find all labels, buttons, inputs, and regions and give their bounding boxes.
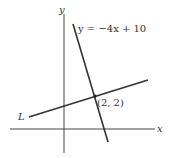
y-axis-label: y <box>58 4 65 15</box>
line-L <box>29 80 148 117</box>
coordinate-diagram: y x y = −4x + 10 L (2, 2) <box>0 0 171 158</box>
x-axis-label: x <box>157 123 163 134</box>
steep-line <box>73 24 108 142</box>
line-L-label: L <box>17 111 25 122</box>
steep-line-label: y = −4x + 10 <box>77 23 146 34</box>
intersection-label: (2, 2) <box>97 97 124 108</box>
